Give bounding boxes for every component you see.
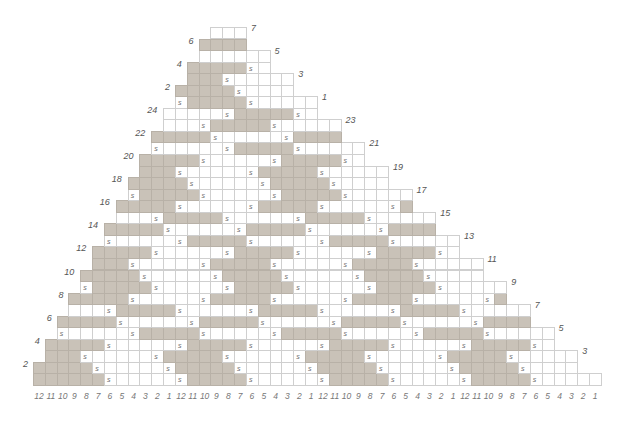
- column-number-label: 8: [364, 391, 376, 401]
- column-number-label: 10: [199, 391, 211, 401]
- row-number-label: 12: [76, 243, 86, 253]
- stitch-symbol: s: [249, 65, 253, 72]
- column-number-label: 10: [341, 391, 353, 401]
- column-number-label: 2: [435, 391, 447, 401]
- stitch-symbol: s: [486, 330, 490, 337]
- column-number-label: 3: [139, 391, 151, 401]
- stitch-symbol: s: [95, 365, 99, 372]
- stitch-symbol: s: [202, 296, 206, 303]
- row-number-label: 7: [251, 23, 256, 33]
- stitch-symbol: s: [249, 238, 253, 245]
- stitch-symbol: s: [320, 376, 324, 383]
- chart-cell: [234, 39, 247, 52]
- column-number-label: 8: [506, 391, 518, 401]
- stitch-symbol: s: [225, 353, 229, 360]
- stitch-symbol: s: [213, 134, 217, 141]
- row-number-label: 14: [88, 220, 98, 230]
- chart-cell: [447, 235, 460, 248]
- stitch-symbol: s: [273, 330, 277, 337]
- column-number-label: 4: [554, 391, 566, 401]
- column-number-label: 9: [494, 391, 506, 401]
- column-number-label: 9: [210, 391, 222, 401]
- stitch-symbol: s: [178, 238, 182, 245]
- column-number-label: 1: [447, 391, 459, 401]
- stitch-symbol: s: [225, 249, 229, 256]
- column-number-label: 2: [151, 391, 163, 401]
- column-number-label: 4: [128, 391, 140, 401]
- column-number-label: 7: [518, 391, 530, 401]
- stitch-symbol: s: [320, 307, 324, 314]
- stitch-symbol: s: [391, 307, 395, 314]
- column-number-label: 8: [222, 391, 234, 401]
- row-number-label: 6: [189, 36, 194, 46]
- chart-cell: [494, 281, 507, 294]
- column-number-label: 8: [80, 391, 92, 401]
- stitch-symbol: s: [273, 261, 277, 268]
- chart-cell: [258, 50, 271, 63]
- chart-cell: [471, 258, 484, 271]
- row-number-label: 24: [147, 105, 157, 115]
- row-number-label: 13: [464, 231, 474, 241]
- column-number-label: 3: [281, 391, 293, 401]
- stitch-symbol: s: [190, 319, 194, 326]
- stitch-symbol: s: [190, 180, 194, 187]
- column-number-label: 5: [542, 391, 554, 401]
- stitch-symbol: s: [154, 353, 158, 360]
- stitch-symbol: s: [154, 249, 158, 256]
- stitch-symbol: s: [320, 169, 324, 176]
- stitch-symbol: s: [344, 261, 348, 268]
- stitch-symbol: s: [533, 342, 537, 349]
- stitch-symbol: s: [391, 238, 395, 245]
- stitch-symbol: s: [296, 145, 300, 152]
- stitch-symbol: s: [107, 342, 111, 349]
- column-number-label: 11: [187, 391, 199, 401]
- stitch-symbol: s: [533, 376, 537, 383]
- stitch-symbol: s: [462, 342, 466, 349]
- row-number-label: 10: [64, 267, 74, 277]
- chart-cell: [400, 200, 413, 213]
- stitch-symbol: s: [119, 319, 123, 326]
- stitch-symbol: s: [225, 76, 229, 83]
- chart-cell: [423, 212, 436, 225]
- stitch-symbol: s: [379, 226, 383, 233]
- row-number-label: 21: [369, 138, 379, 148]
- chart-cell: [494, 293, 507, 306]
- stitch-symbol: s: [391, 376, 395, 383]
- stitch-symbol: s: [320, 203, 324, 210]
- stitch-symbol: s: [308, 226, 312, 233]
- stitch-symbol: s: [83, 353, 87, 360]
- stitch-symbol: s: [202, 122, 206, 129]
- chart-cell: [542, 327, 555, 340]
- chart-cell: [447, 246, 460, 259]
- chart-cell: [518, 316, 531, 329]
- row-number-label: 3: [582, 346, 587, 356]
- column-number-label: 1: [163, 391, 175, 401]
- column-number-label: 4: [270, 391, 282, 401]
- stitch-symbol: s: [273, 157, 277, 164]
- column-number-label: 7: [234, 391, 246, 401]
- stitch-symbol: s: [438, 284, 442, 291]
- stitch-symbol: s: [521, 365, 525, 372]
- column-number-label: 5: [258, 391, 270, 401]
- stitch-symbol: s: [438, 249, 442, 256]
- column-number-label: 12: [459, 391, 471, 401]
- chart-cell: [352, 142, 365, 155]
- stitch-symbol: s: [202, 192, 206, 199]
- stitch-symbol: s: [332, 319, 336, 326]
- column-number-label: 10: [483, 391, 495, 401]
- row-number-label: 5: [275, 46, 280, 56]
- column-number-label: 3: [423, 391, 435, 401]
- column-number-label: 12: [175, 391, 187, 401]
- stitch-symbol: s: [249, 307, 253, 314]
- stitch-symbol: s: [178, 203, 182, 210]
- chart-cell: [376, 177, 389, 190]
- stitch-symbol: s: [60, 330, 64, 337]
- column-number-label: 6: [530, 391, 542, 401]
- stitch-symbol: s: [142, 273, 146, 280]
- stitch-symbol: s: [261, 319, 265, 326]
- stitch-symbol: s: [249, 169, 253, 176]
- column-number-label: 11: [45, 391, 57, 401]
- stitch-symbol: s: [379, 365, 383, 372]
- stitch-symbol: s: [367, 353, 371, 360]
- chart-cell: [281, 73, 294, 86]
